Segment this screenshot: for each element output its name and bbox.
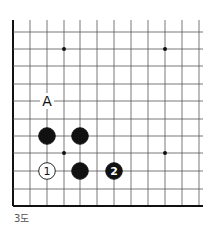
diagram-caption: 3도 xyxy=(14,210,29,225)
move-number-label: 1 xyxy=(44,165,51,178)
star-point-icon xyxy=(163,151,167,155)
star-point-icon xyxy=(62,151,66,155)
marker-label: A xyxy=(42,93,52,109)
star-point-icon xyxy=(163,47,167,51)
go-board: A 12 xyxy=(0,0,212,225)
star-point-icon xyxy=(62,47,66,51)
board-markers: A xyxy=(40,93,54,109)
black-stone xyxy=(72,163,89,180)
black-stone xyxy=(39,128,56,145)
move-number-label: 2 xyxy=(110,165,118,178)
black-stone xyxy=(72,128,89,145)
board-stones: 12 xyxy=(39,128,123,180)
board-grid xyxy=(13,20,203,206)
